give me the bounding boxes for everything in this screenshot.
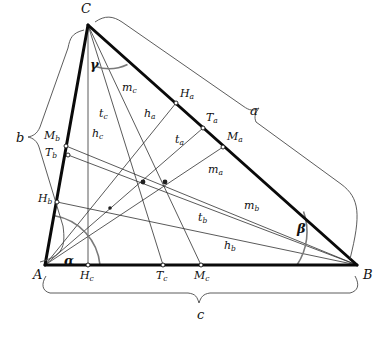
point-base-Hb: H — [38, 192, 48, 205]
altitude-from-A — [45, 103, 176, 265]
angle-label-gamma: γ — [90, 58, 99, 71]
point-label-Mb: Mb — [44, 130, 60, 142]
angle-label-beta: β — [297, 222, 306, 235]
cevian-label-hc: hc — [92, 128, 103, 140]
point-sub-Ta: a — [213, 116, 217, 125]
cevian-sub-tb: b — [202, 216, 207, 225]
cevian-sub-ha: a — [151, 112, 155, 121]
cevian-label-tc: tc — [99, 108, 108, 120]
cevian-base-mc: m — [122, 81, 132, 94]
cevian-sub-hb: b — [231, 244, 236, 253]
orthocenter-dot — [163, 180, 168, 185]
cevian-sub-ta: a — [179, 138, 183, 147]
cevian-base-mb: m — [244, 199, 254, 212]
point-sub-Mb: b — [55, 134, 60, 143]
side-label-c: c — [197, 308, 204, 321]
point-label-Ha: Ha — [180, 88, 194, 100]
cevian-label-ma: ma — [208, 164, 223, 176]
point-Hb — [55, 200, 59, 204]
cevian-label-tb: tb — [198, 212, 207, 224]
point-label-Tb: Tb — [45, 147, 57, 159]
vertex-label-B: B — [363, 268, 373, 281]
point-label-Tc: Tc — [156, 270, 168, 282]
vertex-label-A: A — [33, 268, 42, 281]
point-Hc — [86, 263, 90, 267]
bisector-from-A — [45, 128, 203, 265]
cevian-sub-mb: b — [254, 204, 259, 213]
point-Ta — [201, 126, 205, 130]
cevian-label-mb: mb — [244, 200, 259, 212]
cevian-sub-tc: c — [103, 112, 107, 121]
cevian-label-mc: mc — [122, 82, 137, 94]
point-sub-Hb: b — [48, 197, 53, 206]
cevian-sub-mc: c — [132, 86, 136, 95]
point-label-Hc: Hc — [80, 270, 94, 282]
point-Mc — [199, 263, 203, 267]
point-sub-Tb: b — [52, 151, 57, 160]
cevian-base-ma: m — [208, 163, 218, 176]
diagram-canvas: A B C a b c α β γ Ha Hb Hc Ta Tb Tc Ma M… — [0, 0, 387, 337]
triangle-figure — [0, 0, 387, 337]
angle-label-alpha: α — [64, 254, 74, 267]
point-base-Hc: H — [80, 269, 90, 282]
point-sub-Ma: a — [238, 135, 242, 144]
cevian-label-hb: hb — [224, 240, 236, 252]
point-label-Ta: Ta — [206, 112, 218, 124]
point-Tb — [66, 153, 70, 157]
vertex-label-C: C — [81, 2, 91, 15]
point-Tc — [161, 263, 165, 267]
incenter-dot — [108, 206, 112, 210]
cevian-sub-ma: a — [218, 168, 222, 177]
cevian-label-ta: ta — [175, 134, 184, 146]
point-Ha — [174, 101, 178, 105]
point-sub-Mc: c — [205, 274, 209, 283]
centroid-dot — [141, 180, 146, 185]
cevian-sub-hc: c — [99, 132, 103, 141]
point-label-Hb: Hb — [38, 193, 52, 205]
point-label-Ma: Ma — [227, 131, 243, 143]
cevian-label-ha: ha — [144, 108, 156, 120]
side-label-b: b — [16, 131, 24, 144]
point-base-Mc: M — [194, 269, 205, 282]
point-sub-Hc: c — [90, 274, 94, 283]
point-base-Mb: M — [44, 129, 55, 142]
side-label-a: a — [250, 104, 258, 117]
point-sub-Tc: c — [163, 274, 167, 283]
point-Mb — [64, 144, 68, 148]
point-base-Ma: M — [227, 130, 238, 143]
braces-group — [28, 17, 358, 303]
point-base-Ha: H — [180, 87, 190, 100]
median-from-C — [88, 25, 201, 265]
point-sub-Ha: a — [190, 92, 194, 101]
median-from-A — [45, 147, 223, 265]
point-label-Mc: Mc — [194, 270, 209, 282]
point-Ma — [221, 145, 225, 149]
